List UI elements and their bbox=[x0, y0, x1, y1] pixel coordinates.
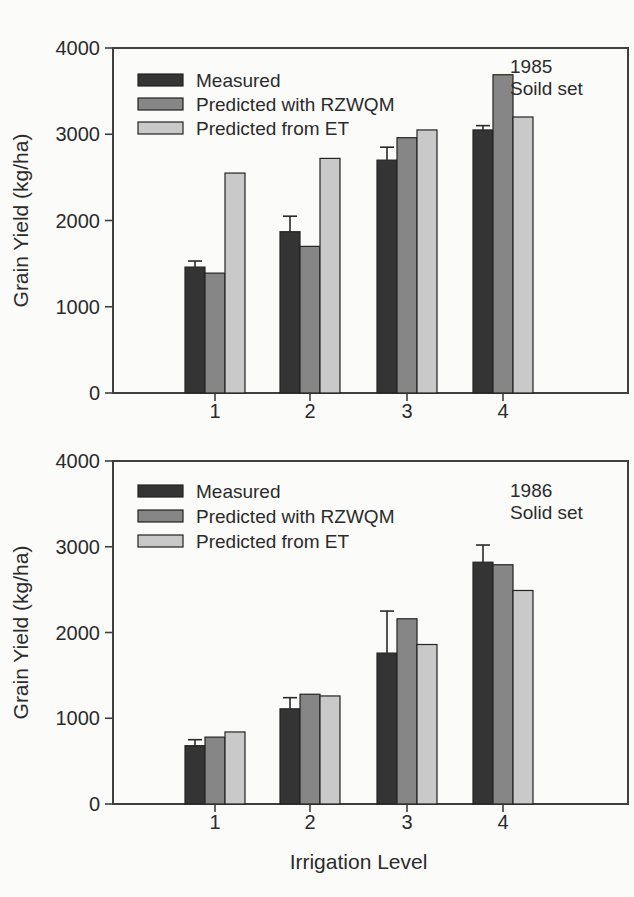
bar-measured-level-2 bbox=[280, 232, 300, 393]
y-tick-label: 1000 bbox=[56, 707, 101, 729]
y-tick-label: 0 bbox=[89, 793, 100, 815]
bar-measured-level-3 bbox=[377, 160, 397, 393]
x-tick-label-2: 2 bbox=[304, 400, 315, 422]
legend-swatch-measured bbox=[138, 485, 183, 497]
bar-predicted-with-rzwqm-level-2 bbox=[300, 246, 320, 393]
x-tick-label-3: 3 bbox=[401, 400, 412, 422]
x-axis-title: Irrigation Level bbox=[290, 850, 428, 873]
legend-label-predicted-from-et: Predicted from ET bbox=[196, 531, 349, 552]
bar-measured-level-4 bbox=[473, 130, 493, 393]
bar-predicted-with-rzwqm-level-4 bbox=[493, 565, 513, 804]
grain-yield-chart-1986: 400030002000100001234MeasuredPredicted w… bbox=[0, 444, 634, 897]
y-tick-label: 3000 bbox=[56, 536, 101, 558]
bar-predicted-from-et-level-4 bbox=[513, 590, 533, 804]
bar-predicted-with-rzwqm-level-2 bbox=[300, 694, 320, 804]
y-axis-title: Grain Yield (kg/ha) bbox=[9, 546, 32, 720]
y-axis-title: Grain Yield (kg/ha) bbox=[9, 134, 32, 308]
bar-predicted-with-rzwqm-level-4 bbox=[493, 75, 513, 393]
y-tick-label: 2000 bbox=[56, 210, 101, 232]
legend-swatch-predicted-from-et bbox=[138, 122, 183, 134]
bar-predicted-from-et-level-1 bbox=[225, 173, 245, 393]
y-tick-label: 4000 bbox=[56, 37, 101, 59]
bar-predicted-from-et-level-1 bbox=[225, 732, 245, 804]
bar-predicted-from-et-level-3 bbox=[417, 645, 437, 804]
y-tick-label: 2000 bbox=[56, 622, 101, 644]
legend-swatch-predicted-with-rzwqm bbox=[138, 98, 183, 110]
legend-swatch-predicted-with-rzwqm bbox=[138, 510, 183, 522]
y-tick-label: 0 bbox=[89, 382, 100, 404]
annotation-line-2: Solid set bbox=[510, 502, 584, 523]
legend-label-predicted-from-et: Predicted from ET bbox=[196, 118, 349, 139]
chart-1985-canvas: 400030002000100001234MeasuredPredicted w… bbox=[0, 0, 634, 440]
x-tick-label-4: 4 bbox=[497, 811, 508, 833]
x-tick-label-3: 3 bbox=[401, 811, 412, 833]
bar-predicted-from-et-level-3 bbox=[417, 130, 437, 393]
bar-predicted-with-rzwqm-level-1 bbox=[205, 273, 225, 393]
annotation-line-1: 1985 bbox=[510, 56, 552, 77]
bar-measured-level-1 bbox=[185, 267, 205, 393]
legend-swatch-predicted-from-et bbox=[138, 535, 183, 547]
grain-yield-chart-1985: 400030002000100001234MeasuredPredicted w… bbox=[0, 0, 634, 444]
x-tick-label-1: 1 bbox=[209, 400, 220, 422]
annotation-line-2: Soild set bbox=[510, 78, 584, 99]
bar-measured-level-1 bbox=[185, 746, 205, 804]
y-tick-label: 4000 bbox=[56, 450, 101, 472]
legend-label-measured: Measured bbox=[196, 481, 281, 502]
legend-label-measured: Measured bbox=[196, 70, 281, 91]
chart-1986-canvas: 400030002000100001234MeasuredPredicted w… bbox=[0, 444, 634, 897]
bar-measured-level-2 bbox=[280, 709, 300, 804]
bar-predicted-with-rzwqm-level-3 bbox=[397, 619, 417, 804]
annotation-line-1: 1986 bbox=[510, 480, 552, 501]
bar-predicted-from-et-level-2 bbox=[320, 696, 340, 804]
x-tick-label-2: 2 bbox=[304, 811, 315, 833]
bar-predicted-with-rzwqm-level-3 bbox=[397, 138, 417, 393]
y-tick-label: 1000 bbox=[56, 296, 101, 318]
x-tick-label-1: 1 bbox=[209, 811, 220, 833]
x-tick-label-4: 4 bbox=[497, 400, 508, 422]
bar-measured-level-4 bbox=[473, 562, 493, 804]
legend-swatch-measured bbox=[138, 74, 183, 86]
bar-predicted-from-et-level-2 bbox=[320, 158, 340, 393]
bar-measured-level-3 bbox=[377, 653, 397, 804]
legend-label-predicted-with-rzwqm: Predicted with RZWQM bbox=[196, 506, 394, 527]
y-tick-label: 3000 bbox=[56, 123, 101, 145]
scanned-figure: 400030002000100001234MeasuredPredicted w… bbox=[0, 0, 634, 897]
bar-predicted-from-et-level-4 bbox=[513, 117, 533, 393]
legend-label-predicted-with-rzwqm: Predicted with RZWQM bbox=[196, 94, 394, 115]
bar-predicted-with-rzwqm-level-1 bbox=[205, 737, 225, 804]
